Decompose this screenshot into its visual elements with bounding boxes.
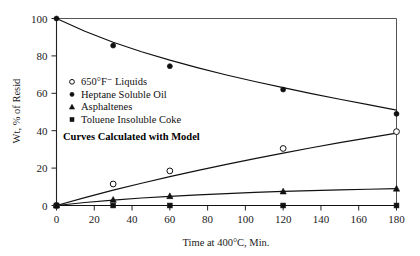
x-tick-label: 160 — [350, 213, 367, 225]
y-tick-label: 100 — [31, 13, 48, 25]
y-tick-label: 60 — [37, 87, 49, 99]
x-tick-label: 60 — [164, 213, 176, 225]
y-axis-title: Wt, % of Resid — [11, 78, 22, 143]
data-point-marker — [110, 181, 116, 187]
data-point-marker — [281, 87, 286, 92]
data-point-marker — [281, 203, 286, 208]
data-point-marker — [280, 146, 286, 152]
x-tick-label: 120 — [275, 213, 292, 225]
legend-item-label: Heptane Soluble Oil — [81, 89, 167, 100]
x-tick-label: 140 — [313, 213, 330, 225]
legend-item-label: Toluene Insoluble Coke — [81, 114, 181, 125]
x-tick-label: 100 — [237, 213, 254, 225]
data-point-marker — [70, 79, 75, 84]
legend-item-label: Asphaltenes — [81, 101, 132, 112]
legend-note: Curves Calculated with Model — [63, 131, 200, 142]
x-tick-label: 40 — [127, 213, 139, 225]
x-axis-title: Time at 400°C, Min. — [183, 237, 270, 248]
y-tick-label: 80 — [37, 50, 49, 62]
data-point-marker — [167, 203, 172, 208]
data-point-marker — [111, 203, 116, 208]
data-point-marker — [167, 64, 172, 69]
series-curve — [57, 133, 397, 205]
data-point-marker — [70, 92, 74, 96]
data-point-marker — [54, 203, 59, 208]
y-tick-label: 20 — [37, 162, 49, 174]
data-point-marker — [111, 43, 116, 48]
data-point-marker — [70, 118, 74, 122]
y-tick-label: 0 — [42, 200, 48, 212]
data-point-marker — [167, 168, 173, 174]
data-point-marker — [54, 16, 59, 21]
data-point-marker — [394, 111, 399, 116]
chart-legend: 650°F⁻ LiquidsHeptane Soluble OilAsphalt… — [63, 76, 200, 142]
data-point-marker — [69, 104, 74, 109]
y-tick-label: 40 — [37, 125, 49, 137]
data-point-marker — [394, 203, 399, 208]
legend-item-label: 650°F⁻ Liquids — [81, 76, 147, 87]
x-tick-label: 180 — [388, 213, 405, 225]
x-tick-label: 0 — [54, 213, 60, 225]
x-tick-label: 20 — [89, 213, 101, 225]
chart-canvas: 020406080100120140160180020406080100 Wt,… — [0, 0, 420, 256]
chart-figure: 020406080100120140160180020406080100 Wt,… — [0, 0, 420, 256]
x-tick-label: 80 — [202, 213, 214, 225]
data-point-marker — [394, 129, 400, 135]
